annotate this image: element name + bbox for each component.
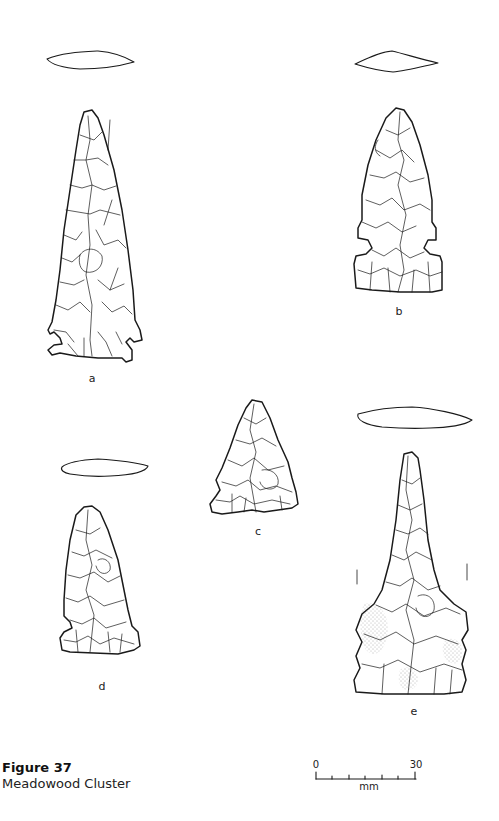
scale-min-label: 0 (313, 759, 319, 770)
specimen-c-label: c (255, 525, 261, 538)
scale-unit-label: mm (359, 781, 378, 792)
scale-max-label: 30 (410, 759, 423, 770)
specimen-d-label: d (99, 680, 106, 693)
specimen-e-label: e (411, 705, 418, 718)
specimen-d-cross-section (61, 459, 148, 476)
figure-number: Figure 37 (2, 760, 130, 776)
specimen-d-drawing (60, 506, 140, 654)
specimen-c-drawing (210, 400, 298, 514)
specimen-e-cross-section (358, 407, 472, 428)
figure-plate: a b (0, 0, 499, 821)
specimen-b-cross-section (355, 51, 438, 72)
specimen-a-label: a (89, 372, 96, 385)
specimen-b-label: b (396, 305, 403, 318)
scale-bar (316, 772, 416, 779)
figure-title: Meadowood Cluster (2, 776, 130, 792)
specimen-b-drawing (354, 108, 442, 292)
specimen-a-drawing (48, 110, 142, 362)
artifact-drawings: a b (0, 0, 499, 821)
specimen-e-drawing (354, 452, 468, 694)
specimen-a-cross-section (47, 51, 134, 69)
figure-caption: Figure 37 Meadowood Cluster (2, 760, 130, 792)
